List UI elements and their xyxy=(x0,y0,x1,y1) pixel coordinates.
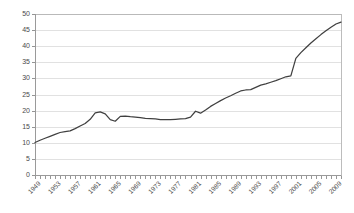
y-tick-label: 25 xyxy=(22,91,30,98)
line-chart: 05101520253035404550 1949195319571961196… xyxy=(0,0,354,213)
y-axis-tick-labels: 05101520253035404550 xyxy=(22,10,30,178)
x-tick-label: 2005 xyxy=(307,180,323,196)
y-tick-label: 15 xyxy=(22,123,30,130)
x-tick-label: 1993 xyxy=(247,180,263,196)
y-tick-label: 35 xyxy=(22,58,30,65)
x-tick-label: 2001 xyxy=(287,180,303,196)
y-tick-label: 10 xyxy=(22,139,30,146)
x-tick-label: 1949 xyxy=(26,180,42,196)
x-tick-label: 1997 xyxy=(267,180,283,196)
x-tick-label: 1973 xyxy=(147,180,163,196)
x-tick-label: 2009 xyxy=(327,180,343,196)
y-tick-label: 40 xyxy=(22,42,30,49)
x-tick-label: 1981 xyxy=(187,180,203,196)
chart-container: 05101520253035404550 1949195319571961196… xyxy=(0,0,354,213)
y-tick-label: 0 xyxy=(26,171,30,178)
y-tick-label: 5 xyxy=(26,155,30,162)
x-tick-label: 1953 xyxy=(46,180,62,196)
y-tick-label: 50 xyxy=(22,10,30,17)
plot-background xyxy=(35,14,341,175)
x-tick-label: 1969 xyxy=(127,180,143,196)
x-axis-tick-labels: 1949195319571961196519691973197719811985… xyxy=(26,180,343,196)
x-tick-label: 1989 xyxy=(227,180,243,196)
y-tick-label: 45 xyxy=(22,26,30,33)
x-tick-label: 1961 xyxy=(87,180,103,196)
x-tick-label: 1977 xyxy=(167,180,183,196)
x-tick-label: 1957 xyxy=(67,180,83,196)
x-tick-label: 1965 xyxy=(107,180,123,196)
x-tick-label: 1985 xyxy=(207,180,223,196)
y-tick-label: 20 xyxy=(22,107,30,114)
y-tick-label: 30 xyxy=(22,74,30,81)
